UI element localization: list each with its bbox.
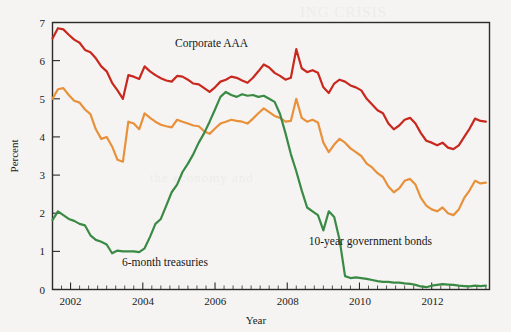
y-tick-7: 7 <box>40 17 46 29</box>
y-tick-2: 2 <box>40 207 46 219</box>
series-line-corporate-aaa <box>53 28 486 149</box>
y-tick-1: 1 <box>40 245 46 257</box>
y-tick-5: 5 <box>40 93 46 105</box>
y-axis-ticks <box>53 23 61 290</box>
x-tick-2008: 2008 <box>277 295 300 307</box>
y-tick-4: 4 <box>40 131 46 143</box>
series-line-6-month-treasuries <box>53 92 486 287</box>
x-tick-2006: 2006 <box>204 295 227 307</box>
y-tick-3: 3 <box>40 169 46 181</box>
data-series-group <box>53 28 486 287</box>
plot-frame <box>53 23 490 290</box>
annotation-6month-treasuries: 6-month treasuries <box>122 256 208 268</box>
x-tick-2004: 2004 <box>132 295 155 307</box>
x-tick-2002: 2002 <box>60 295 82 307</box>
y-axis-title: Percent <box>8 140 20 173</box>
x-axis-tick-labels: 2002 2004 2006 2008 2010 2012 <box>60 295 444 307</box>
annotation-corporate-aaa: Corporate AAA <box>175 37 249 50</box>
x-tick-2012: 2012 <box>421 295 443 307</box>
y-tick-6: 6 <box>40 55 46 67</box>
x-axis-title: Year <box>246 314 267 326</box>
y-axis-tick-labels: 0 1 2 3 4 5 6 7 <box>40 17 46 296</box>
y-tick-0: 0 <box>40 284 46 296</box>
interest-rates-line-chart: 0 1 2 3 4 5 6 7 Percent 2002 2004 2006 2… <box>0 0 511 332</box>
x-tick-2010: 2010 <box>349 295 372 307</box>
series-line-10-year-government-bonds <box>53 88 486 215</box>
annotation-10year-gov-bonds: 10-year government bonds <box>309 235 433 248</box>
